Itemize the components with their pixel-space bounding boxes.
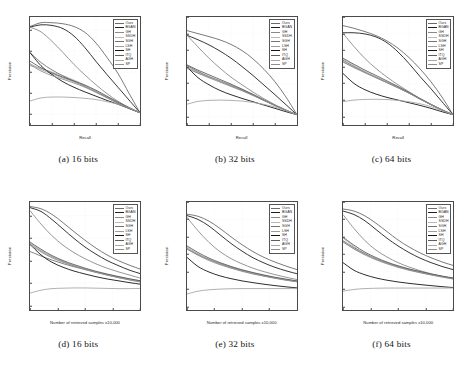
legend-item-sp[interactable]: SP [115, 62, 136, 67]
y-tick-mark [30, 29, 32, 30]
chart-legend-e: OursBGANGHSSDHSGHLSHSHITQAGHSP [269, 204, 294, 254]
y-tick-mark [187, 254, 189, 255]
panel-caption-d: (d) 16 bits [58, 339, 98, 349]
x-tick-label: 0.8 [272, 125, 277, 126]
legend-swatch-sh [271, 50, 280, 51]
y-axis-label-e: Precision [163, 247, 168, 266]
legend-label-sp: SP [125, 248, 130, 252]
x-tick-label: 0.2 [363, 125, 368, 126]
x-tick-label: 0.2 [206, 125, 211, 126]
y-tick-mark [343, 254, 345, 255]
legend-swatch-gh [428, 217, 437, 218]
chart-legend-a: OursBGANGHSSDHSGHLSHSHITQAGHSP [113, 19, 138, 69]
x-tick-label: 2 [139, 310, 141, 311]
legend-item-sp[interactable]: SP [271, 247, 292, 252]
legend-swatch-ours [428, 208, 437, 209]
legend-item-sp[interactable]: SP [428, 62, 449, 67]
legend-swatch-bgan [115, 27, 124, 28]
legend-swatch-sp [115, 64, 124, 65]
x-tick-mark [241, 308, 242, 310]
x-axis-label-c: Recall [392, 135, 404, 140]
legend-swatch-ours [271, 208, 280, 209]
legend-swatch-agh [115, 60, 124, 61]
figure-grid: PrecisionRecall0.10.20.30.40.500.20.40.6… [0, 0, 470, 370]
chart-legend-c: OursBGANGHSSDHSGHLSHSHITQAGHSP [426, 19, 451, 69]
panel-caption-b: (b) 32 bits [215, 154, 255, 164]
x-tick-mark [140, 123, 141, 125]
x-tick-mark [74, 123, 75, 125]
y-tick-mark [187, 83, 189, 84]
legend-swatch-itq [115, 240, 124, 241]
panel-caption-a: (a) 16 bits [59, 154, 98, 164]
axes-a: 0.10.20.30.40.500.20.40.60.81OursBGANGHS… [29, 16, 141, 126]
y-tick-mark [187, 33, 189, 34]
legend-item-sp[interactable]: SP [428, 247, 449, 252]
x-tick-mark [425, 308, 426, 310]
x-tick-mark [343, 123, 344, 125]
x-tick-label: 1.5 [267, 310, 272, 311]
legend-label-sgh: SGH [439, 225, 447, 229]
y-tick-mark [343, 83, 345, 84]
legend-label-sp: SP [125, 63, 130, 67]
legend-swatch-sgh [115, 226, 124, 227]
legend-swatch-sgh [428, 226, 437, 227]
y-tick-mark [187, 100, 189, 101]
legend-swatch-itq [115, 55, 124, 56]
legend-label-sgh: SGH [439, 40, 447, 44]
x-tick-mark [186, 123, 187, 125]
legend-swatch-agh [115, 245, 124, 246]
x-tick-label: 0 [186, 125, 188, 126]
x-tick-label: 0.8 [429, 125, 434, 126]
x-tick-label: 0.5 [212, 310, 217, 311]
x-tick-label: 0 [186, 310, 188, 311]
y-tick-mark [30, 260, 32, 261]
plot-area-d: PrecisionNumber of retrieved samples x10… [0, 185, 157, 337]
legend-swatch-sh [271, 235, 280, 236]
legend-swatch-sh [115, 235, 124, 236]
chart-legend-f: OursBGANGHSSDHSGHLSHSHITQAGHSP [426, 204, 451, 254]
x-tick-label: 0 [342, 310, 344, 311]
legend-swatch-ours [115, 23, 124, 24]
y-tick-mark [187, 219, 189, 220]
y-tick-mark [30, 114, 32, 115]
x-tick-mark [140, 308, 141, 310]
legend-swatch-sp [271, 64, 280, 65]
x-tick-label: 1 [296, 125, 298, 126]
legend-swatch-bgan [271, 27, 280, 28]
legend-swatch-sh [115, 50, 124, 51]
legend-item-sp[interactable]: SP [115, 247, 136, 252]
x-axis-label-d: Number of retrieved samples x10,000 [50, 320, 120, 325]
legend-item-sp[interactable]: SP [271, 62, 292, 67]
y-tick-mark [30, 238, 32, 239]
y-tick-mark [187, 271, 189, 272]
legend-swatch-gh [115, 32, 124, 33]
y-tick-mark [343, 289, 345, 290]
legend-swatch-gh [271, 32, 280, 33]
legend-swatch-gh [428, 32, 437, 33]
legend-swatch-agh [428, 245, 437, 246]
y-axis-label-d: Precision [7, 247, 12, 266]
legend-swatch-lsh [271, 46, 280, 47]
axes-b: 0.10.20.30.40.50.60.700.20.40.60.81OursB… [186, 16, 298, 126]
legend-swatch-bgan [115, 212, 124, 213]
x-tick-mark [296, 123, 297, 125]
y-tick-mark [343, 237, 345, 238]
legend-swatch-ssdh [428, 37, 437, 38]
legend-swatch-bgan [428, 212, 437, 213]
plot-area-c: PrecisionRecall0.10.20.30.40.50.60.700.2… [313, 0, 470, 152]
legend-swatch-itq [428, 55, 437, 56]
legend-label-sp: SP [282, 248, 287, 252]
legend-swatch-ssdh [115, 222, 124, 223]
y-tick-mark [343, 116, 345, 117]
legend-swatch-agh [428, 60, 437, 61]
x-tick-label: 0 [29, 310, 31, 311]
y-tick-mark [187, 67, 189, 68]
y-tick-mark [343, 33, 345, 34]
x-tick-label: 1 [84, 310, 86, 311]
x-tick-mark [214, 308, 215, 310]
legend-swatch-lsh [115, 231, 124, 232]
legend-swatch-itq [428, 240, 437, 241]
x-tick-mark [370, 308, 371, 310]
x-tick-mark [387, 123, 388, 125]
x-tick-label: 0.4 [228, 125, 233, 126]
